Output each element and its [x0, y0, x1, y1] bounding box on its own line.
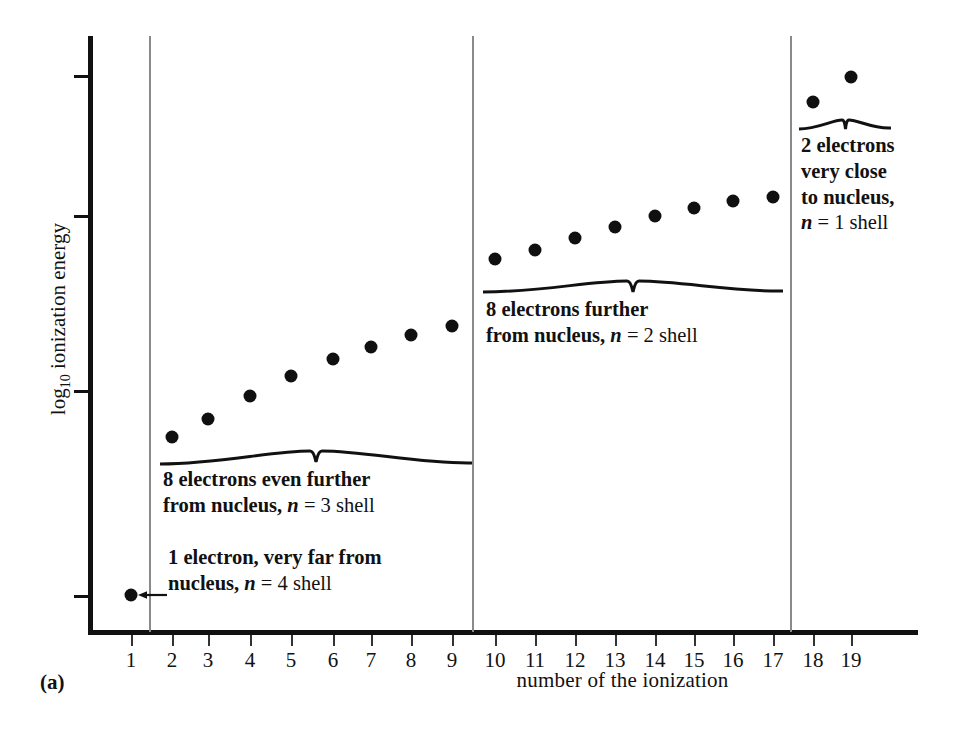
- panel-label: (a): [40, 670, 65, 695]
- data-point: [365, 341, 378, 354]
- data-point: [845, 71, 858, 84]
- data-point: [807, 96, 820, 109]
- annotation-n2-line2: from nucleus, n = 2 shell: [486, 323, 786, 349]
- annotation-n1-shell: 2 electrons very close to nucleus, n = 1…: [801, 133, 951, 236]
- quantum-number-symbol: n: [801, 211, 812, 233]
- y-axis-title: log10 ionization energy: [46, 154, 74, 484]
- annotation-n1-line2: very close: [801, 159, 951, 185]
- data-point: [285, 370, 298, 383]
- data-point: [767, 191, 780, 204]
- y-axis-tick: [74, 75, 89, 78]
- annotation-n4-line2: nucleus, n = 4 shell: [168, 571, 498, 597]
- annotation-n4-line2-rest: 4 shell: [278, 572, 332, 594]
- annotation-n2-shell: 8 electrons further from nucleus, n = 2 …: [486, 297, 786, 349]
- data-point: [688, 202, 701, 215]
- data-point: [489, 253, 502, 266]
- equals-sign: =: [812, 211, 834, 233]
- y-axis-title-prefix: log: [46, 388, 70, 415]
- y-axis-tick: [74, 215, 89, 218]
- annotation-n3-line2-rest: 3 shell: [321, 494, 375, 516]
- quantum-number-symbol: n: [287, 494, 298, 516]
- pointer-arrow-n4: [138, 588, 168, 606]
- y-axis-tick: [74, 595, 89, 598]
- data-point: [649, 210, 662, 223]
- data-point: [609, 221, 622, 234]
- y-axis-title-suffix: ionization energy: [46, 223, 70, 374]
- annotation-n3-line2-prefix: from nucleus,: [163, 494, 287, 516]
- y-axis-title-subscript: 10: [58, 374, 73, 388]
- data-point: [125, 589, 138, 602]
- annotation-n2-line1: 8 electrons further: [486, 297, 786, 323]
- shell-divider-n4-n3: [149, 36, 151, 632]
- annotation-n2-line2-prefix: from nucleus,: [486, 324, 610, 346]
- annotation-n4-line2-prefix: nucleus,: [168, 572, 244, 594]
- data-point: [727, 195, 740, 208]
- annotation-n3-shell: 8 electrons even further from nucleus, n…: [163, 467, 473, 519]
- annotation-n2-line2-rest: 2 shell: [644, 324, 698, 346]
- data-point: [244, 390, 257, 403]
- quantum-number-symbol: n: [244, 572, 255, 594]
- data-point: [166, 431, 179, 444]
- equals-sign: =: [622, 324, 644, 346]
- x-axis-line: [88, 630, 918, 635]
- annotation-n3-line2: from nucleus, n = 3 shell: [163, 493, 473, 519]
- x-axis-title: number of the ionization: [0, 668, 965, 693]
- data-point: [405, 329, 418, 342]
- annotation-n4-shell: 1 electron, very far from nucleus, n = 4…: [168, 545, 498, 597]
- shell-divider-n3-n2: [472, 36, 474, 632]
- data-point: [569, 232, 582, 245]
- quantum-number-symbol: n: [610, 324, 621, 346]
- data-point: [202, 413, 215, 426]
- ionization-energy-figure: 1 2 3 4 5 6 7 8 9 10 11 12 13 14 15 16 1…: [0, 0, 965, 738]
- annotation-n3-line1: 8 electrons even further: [163, 467, 473, 493]
- data-point: [327, 353, 340, 366]
- equals-sign: =: [299, 494, 321, 516]
- y-axis-line: [88, 36, 93, 634]
- x-axis-title-text: number of the ionization: [517, 668, 729, 692]
- y-axis-tick: [74, 390, 89, 393]
- data-point: [529, 244, 542, 257]
- annotation-n1-line4: n = 1 shell: [801, 210, 951, 236]
- data-point: [446, 320, 459, 333]
- annotation-n1-line3: to nucleus,: [801, 185, 951, 211]
- equals-sign: =: [256, 572, 278, 594]
- annotation-n1-line4-rest: 1 shell: [834, 211, 888, 233]
- annotation-n4-line1: 1 electron, very far from: [168, 545, 498, 571]
- annotation-n1-line1: 2 electrons: [801, 133, 951, 159]
- shell-divider-n2-n1: [790, 36, 792, 632]
